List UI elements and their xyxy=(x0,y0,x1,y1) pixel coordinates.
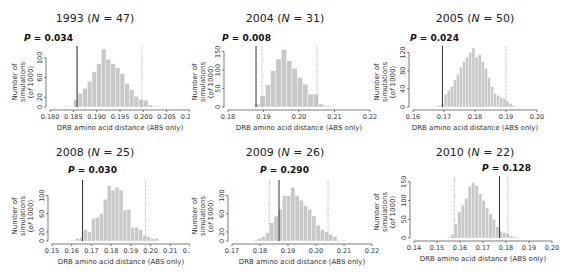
y-tick-label: 0 xyxy=(38,239,46,243)
histogram-bar xyxy=(255,104,260,107)
histogram-bar xyxy=(106,59,111,107)
histogram-bar xyxy=(297,78,302,108)
histogram-bar xyxy=(316,225,320,241)
histogram-bar xyxy=(453,80,456,107)
histogram-bar xyxy=(84,230,88,241)
y-tick-label: 0 xyxy=(399,105,407,109)
histogram-bar xyxy=(153,106,158,107)
histogram-bar xyxy=(303,206,307,241)
x-tick-label: 0.21 xyxy=(163,247,177,255)
panel-title: 2005 (N = 50) xyxy=(380,12,570,25)
histogram-bar xyxy=(95,217,99,241)
x-tick-label: 0.195 xyxy=(111,113,130,121)
y-tick-label: 150 xyxy=(214,45,222,57)
panel-title: 2004 (N = 31) xyxy=(190,12,380,25)
histogram-bar xyxy=(119,190,123,241)
histogram-bar xyxy=(494,93,497,107)
y-tick-label: 150 xyxy=(400,176,408,188)
panel-title: 1993 (N = 47) xyxy=(0,12,190,25)
histogram-bar xyxy=(447,91,450,107)
histogram-bar xyxy=(287,196,291,241)
x-tick-label: 0.17 xyxy=(225,247,239,255)
y-axis-label: Number of simulations(of 1000) xyxy=(191,47,215,117)
histogram-bar xyxy=(111,64,116,107)
p-value-label: P = 0.024 xyxy=(410,33,459,43)
p-value-label: P = 0.008 xyxy=(222,33,271,43)
histogram-bar xyxy=(120,74,125,107)
histogram-bar xyxy=(92,72,97,107)
x-tick-label: 0.21 xyxy=(337,247,351,255)
histogram-bar xyxy=(456,74,459,107)
histogram-bar xyxy=(497,95,500,107)
y-axis-label: Number of simulations(of 1000) xyxy=(373,177,397,247)
histogram-bar xyxy=(503,232,506,238)
histogram-bar xyxy=(87,232,91,241)
panel-title: 2009 (N = 26) xyxy=(190,146,380,159)
y-tick-label: 80 xyxy=(399,67,407,75)
x-tick-label: 0.19 xyxy=(522,244,536,252)
histogram-bar xyxy=(513,237,516,239)
x-tick-label: 0.16 xyxy=(64,247,78,255)
histogram-bar xyxy=(313,94,318,107)
panel-2005: 0.160.170.180.190.20040801202005 (N = 50… xyxy=(380,0,570,138)
title-n: 25 xyxy=(116,146,130,159)
x-tick-label: 0.20 xyxy=(309,247,323,255)
y-tick-label: 100 xyxy=(214,64,222,76)
title-year: 2004 xyxy=(246,12,274,25)
histogram-bar xyxy=(123,210,127,241)
histogram-bar xyxy=(438,105,441,107)
histogram-bar xyxy=(472,48,475,107)
title-year: 2009 xyxy=(246,146,274,159)
histogram-bar xyxy=(127,209,131,241)
histogram-bar xyxy=(516,237,519,238)
histogram-bar xyxy=(115,187,119,241)
histogram-bar xyxy=(281,50,286,107)
y-tick-label: 100 xyxy=(38,189,46,201)
histogram-bar xyxy=(481,62,484,107)
x-tick-label: 0.17 xyxy=(84,247,98,255)
title-year: 2008 xyxy=(56,146,84,159)
histogram-bar xyxy=(83,88,88,107)
panel-2004: 0.180.190.200.210.220501001502004 (N = 3… xyxy=(190,0,380,138)
y-axis-label-line1: Number of simulations xyxy=(373,47,389,117)
p-value: 0.024 xyxy=(430,33,458,43)
histogram-bar xyxy=(99,214,103,241)
histogram-bar xyxy=(333,236,337,241)
histogram-bar xyxy=(485,208,488,238)
p-value-label: P = 0.290 xyxy=(260,165,309,175)
y-axis-label-line2: (of 1000) xyxy=(27,47,35,117)
x-tick-label: 0.18 xyxy=(499,244,513,252)
histogram-bar xyxy=(261,236,265,241)
histogram-bar xyxy=(253,240,257,241)
histogram-bar xyxy=(64,106,69,107)
y-axis-label-line2: (of 1000) xyxy=(389,177,397,247)
histogram-bar xyxy=(97,64,102,107)
histogram-bar xyxy=(329,234,333,241)
panel-2010: 0.140.150.160.170.180.190.20050100150201… xyxy=(380,138,570,276)
histogram-bar xyxy=(451,234,454,238)
x-tick-label: 0.205 xyxy=(157,113,176,121)
title-n: 31 xyxy=(306,12,320,25)
panel-title: 2008 (N = 25) xyxy=(0,146,190,159)
title-year: 1993 xyxy=(56,12,84,25)
x-axis-label: DRB amino acid distance (ABS only) xyxy=(46,258,196,266)
histogram-bar xyxy=(76,238,80,241)
histogram-bar xyxy=(308,94,313,107)
x-axis-label: DRB amino acid distance (ABS only) xyxy=(45,124,195,132)
histogram-bar xyxy=(515,106,518,107)
histogram-bar xyxy=(492,219,495,238)
x-tick-label: 0.17 xyxy=(476,244,490,252)
histogram-bar xyxy=(291,187,295,241)
figure: 0.1800.1850.1900.1950.2000.2050.21002060… xyxy=(0,0,572,276)
x-tick-label: 0.14 xyxy=(407,244,421,252)
y-axis-label-line1: Number of simulations xyxy=(11,181,27,251)
histogram-bar xyxy=(131,227,135,241)
histogram-bar xyxy=(435,106,438,107)
p-value: 0.008 xyxy=(242,33,270,43)
histogram-bar xyxy=(147,236,151,241)
x-tick-label: 0.18 xyxy=(253,247,267,255)
histogram-bar xyxy=(509,103,512,107)
histogram-bar xyxy=(135,227,139,241)
title-n: 47 xyxy=(116,12,130,25)
x-tick-label: 0.18 xyxy=(468,113,482,121)
